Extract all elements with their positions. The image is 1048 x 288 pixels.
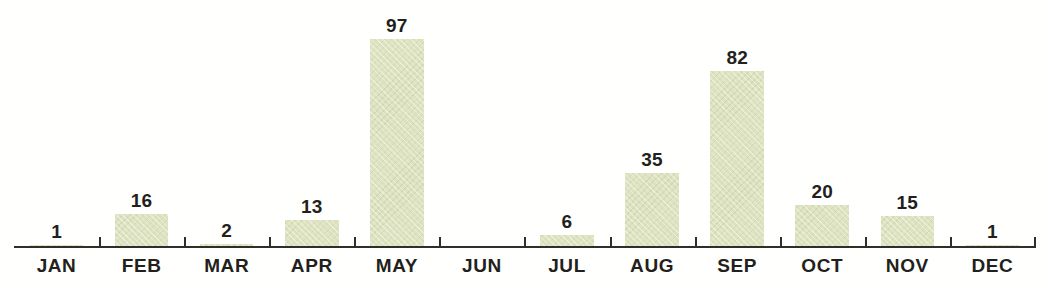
bar-columns: 116213976358220151 [14, 0, 1035, 248]
bar-value-label: 20 [780, 182, 865, 201]
bar-column[interactable]: 35 [610, 0, 695, 248]
bar-column[interactable]: 1 [14, 0, 99, 248]
bar[interactable] [285, 220, 339, 248]
bar-value-label: 2 [184, 221, 269, 240]
bar-value-label: 6 [524, 212, 609, 231]
bar-value-label: 82 [695, 48, 780, 67]
bar-column[interactable]: 20 [780, 0, 865, 248]
bar-value-label: 35 [610, 150, 695, 169]
category-label: JAN [14, 256, 99, 277]
bar[interactable] [795, 205, 849, 248]
bar[interactable] [710, 71, 764, 248]
bar-column[interactable]: 82 [695, 0, 780, 248]
bar[interactable] [625, 173, 679, 248]
category-label: SEP [695, 256, 780, 277]
category-label: OCT [780, 256, 865, 277]
x-axis-line [14, 246, 1035, 248]
bar[interactable] [370, 39, 424, 248]
bar-column[interactable]: 13 [269, 0, 354, 248]
category-label: MAY [354, 256, 439, 277]
bar-column[interactable]: 1 [950, 0, 1035, 248]
category-label: JUL [524, 256, 609, 277]
bar-column[interactable] [439, 0, 524, 248]
category-label: DEC [950, 256, 1035, 277]
bar-value-label: 13 [269, 197, 354, 216]
bar-column[interactable]: 6 [524, 0, 609, 248]
category-label: AUG [610, 256, 695, 277]
category-label: APR [269, 256, 354, 277]
bar-column[interactable]: 2 [184, 0, 269, 248]
bar[interactable] [115, 214, 169, 248]
bar-value-label: 97 [354, 16, 439, 35]
bar-column[interactable]: 97 [354, 0, 439, 248]
bar-value-label: 1 [950, 222, 1035, 241]
category-label: JUN [439, 256, 524, 277]
category-label: MAR [184, 256, 269, 277]
category-label: NOV [865, 256, 950, 277]
bar-value-label: 15 [865, 193, 950, 212]
plot-area: 116213976358220151 JANFEBMARAPRMAYJUNJUL… [14, 0, 1035, 288]
bar-column[interactable]: 16 [99, 0, 184, 248]
bar-column[interactable]: 15 [865, 0, 950, 248]
bar-value-label: 1 [14, 222, 99, 241]
bar[interactable] [881, 216, 935, 248]
x-axis-category-labels: JANFEBMARAPRMAYJUNJULAUGSEPOCTNOVDEC [14, 256, 1035, 277]
category-label: FEB [99, 256, 184, 277]
bar-chart: 116213976358220151 JANFEBMARAPRMAYJUNJUL… [0, 0, 1048, 288]
bar-value-label: 16 [99, 191, 184, 210]
